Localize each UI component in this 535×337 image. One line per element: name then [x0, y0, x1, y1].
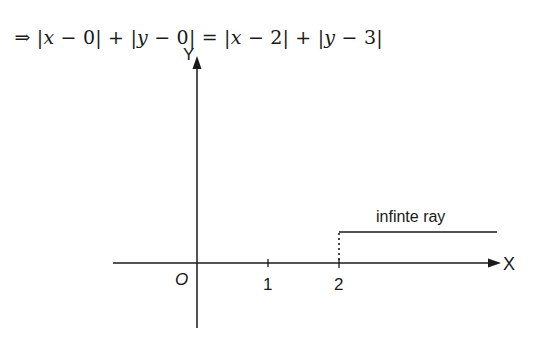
- y-axis-label: Y: [183, 45, 194, 64]
- ray-label: infinte ray: [376, 208, 445, 225]
- tick-label-2: 2: [334, 275, 343, 294]
- origin-label: O: [175, 270, 188, 289]
- tick-label-1: 1: [263, 275, 272, 294]
- x-axis-label: X: [503, 254, 515, 274]
- x-axis-arrow-icon: [488, 259, 501, 268]
- coordinate-diagram: Y X O 1 2 infinte ray: [0, 0, 535, 337]
